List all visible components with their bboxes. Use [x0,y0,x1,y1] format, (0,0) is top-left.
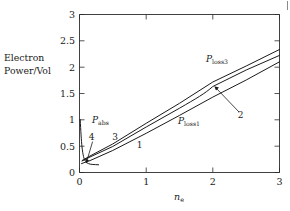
x-axis-title-sub: e [180,196,184,204]
x-tick-label-1: 1 [143,176,149,187]
y-tick-labels: 0 0.5 1 1.5 2 2.5 3 [60,9,75,178]
p-abs-label-sub: abs [98,118,109,125]
figure-container: Electron Power/Vol [0,0,290,211]
y-tick-label-5: 2.5 [60,35,75,46]
y-tick-label-2: 1 [69,114,75,125]
p-loss1-label: Ploss1 [177,116,200,127]
y-tick-label-1: 0.5 [60,141,75,152]
y-tick-label-6: 3 [69,9,75,20]
x-tick-label-3: 3 [276,176,282,187]
x-tick-label-2: 2 [210,176,216,187]
series-number-1: 1 [137,140,143,150]
chart-svg: 0 0.5 1 1.5 2 2.5 3 0 1 2 3 ne Pabs 4 [0,0,290,211]
x-tick-marks [80,168,280,173]
leader-line-4 [87,142,93,161]
p-loss1-label-sub: loss1 [184,120,200,127]
axis-box [80,15,280,173]
x-tick-marks-top [80,15,280,20]
y-tick-label-0: 0 [69,167,75,178]
leader-line-2 [217,89,240,113]
p-loss3-label: Ploss3 [205,54,228,65]
x-tick-labels: 0 1 2 3 [76,176,282,187]
series-number-3: 3 [112,132,118,142]
series-number-4: 4 [89,132,95,142]
y-tick-label-4: 2 [69,62,75,73]
curve-p-loss3 [82,50,279,161]
p-loss3-label-sub: loss3 [212,58,228,65]
x-axis-title: ne [174,191,184,204]
curve-p-loss1 [82,62,280,164]
y-tick-label-3: 1.5 [60,88,75,99]
curve-p-loss2 [82,55,280,161]
y-tick-marks-right [275,15,280,173]
x-tick-label-0: 0 [76,176,82,187]
axes-frame [80,15,280,173]
p-abs-label: Pabs [91,115,109,126]
